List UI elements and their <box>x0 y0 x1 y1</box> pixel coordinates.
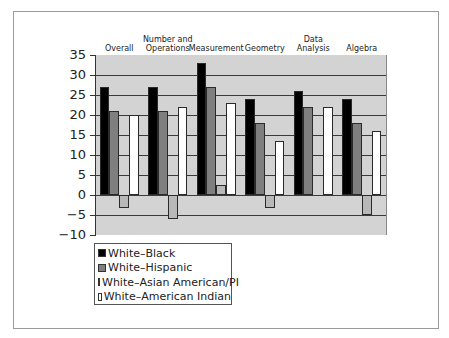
bar <box>342 99 352 195</box>
gridline <box>95 95 386 96</box>
y-tick-label: 10 <box>56 148 86 161</box>
legend-item-white-hispanic: White–Hispanic <box>98 261 231 276</box>
legend-label: White–Black <box>108 247 175 260</box>
bar <box>265 195 275 208</box>
legend-swatch-icon <box>98 264 106 272</box>
bar <box>323 107 333 195</box>
legend-swatch-icon <box>98 249 106 257</box>
y-tick <box>90 215 96 216</box>
y-tick-label: 35 <box>56 48 86 61</box>
legend-item-white-american-indian: White–American Indian <box>98 290 231 305</box>
y-tick-label: −5 <box>56 208 86 221</box>
bar <box>119 195 129 208</box>
y-tick <box>90 155 96 156</box>
bar <box>197 63 207 195</box>
y-tick <box>90 135 96 136</box>
y-tick <box>90 55 96 56</box>
bar <box>100 87 110 195</box>
bar <box>148 87 158 195</box>
bar <box>158 111 168 195</box>
y-tick-label: −10 <box>56 228 86 241</box>
y-tick <box>90 235 96 236</box>
bar <box>352 123 362 195</box>
y-tick-label: 5 <box>56 168 86 181</box>
y-tick-label: 25 <box>56 88 86 101</box>
y-tick-label: 15 <box>56 128 86 141</box>
y-tick <box>90 195 96 196</box>
bar <box>129 115 139 195</box>
bar <box>362 195 372 215</box>
bar <box>303 107 313 195</box>
legend-label: White–Asian American/PI <box>102 276 239 289</box>
bar <box>255 123 265 195</box>
bar <box>372 131 382 195</box>
bar <box>109 111 119 195</box>
bar <box>178 107 188 195</box>
bar <box>216 185 226 195</box>
legend: White–Black White–Hispanic White–Asian A… <box>94 243 232 305</box>
bar <box>275 141 285 195</box>
legend-label: White–American Indian <box>104 290 231 303</box>
category-label: Algebra <box>333 44 391 53</box>
legend-swatch-icon <box>98 293 102 301</box>
bar <box>226 103 236 195</box>
y-tick-label: 0 <box>56 188 86 201</box>
bar <box>245 99 255 195</box>
y-tick <box>90 75 96 76</box>
y-tick-label: 20 <box>56 108 86 121</box>
y-axis-line <box>95 55 96 236</box>
y-tick <box>90 175 96 176</box>
y-tick <box>90 95 96 96</box>
y-tick-label: 30 <box>56 68 86 81</box>
legend-item-white-asian-american-pi: White–Asian American/PI <box>98 275 231 290</box>
bar <box>294 91 304 195</box>
bar <box>206 87 216 195</box>
gridline <box>95 215 386 216</box>
legend-label: White–Hispanic <box>108 261 192 274</box>
bar <box>168 195 178 219</box>
y-tick <box>90 115 96 116</box>
plot-area <box>95 55 387 235</box>
gridline <box>95 195 386 196</box>
legend-item-white-black: White–Black <box>98 246 231 261</box>
gridline <box>95 75 386 76</box>
legend-swatch-icon <box>98 278 100 286</box>
